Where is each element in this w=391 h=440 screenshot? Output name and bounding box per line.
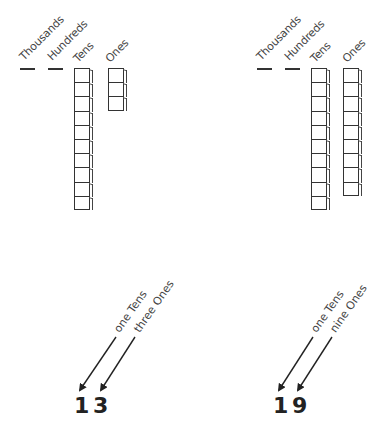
arrows: [237, 0, 391, 440]
arrow-icon: [101, 337, 135, 390]
arrow-icon: [80, 337, 116, 390]
example-panel-13: Thousands Hundreds Tens Ones one Tens th…: [0, 0, 195, 440]
digit-tens: 1: [74, 393, 89, 418]
example-panel-19: Thousands Hundreds Tens Ones: [237, 0, 391, 440]
arrow-icon: [298, 337, 332, 390]
digit-ones: 3: [93, 393, 108, 418]
digit-ones: 9: [292, 393, 307, 418]
digit-tens: 1: [273, 393, 288, 418]
arrow-icon: [279, 337, 313, 390]
arrows: [0, 0, 195, 440]
